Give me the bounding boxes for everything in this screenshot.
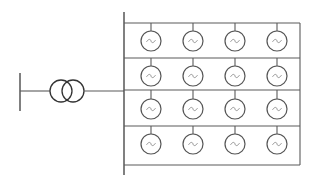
generator-icon <box>141 90 161 119</box>
generator-icon <box>225 90 245 119</box>
generator-icon <box>183 58 203 86</box>
transformer-icon <box>50 80 124 102</box>
generator-icon <box>225 58 245 86</box>
generator-icon <box>267 58 287 86</box>
generator-icon <box>141 23 161 51</box>
collector-array <box>124 12 300 175</box>
generator-icon <box>267 90 287 119</box>
generator-icon <box>183 90 203 119</box>
transformer-primary-winding-icon <box>50 80 72 102</box>
single-line-diagram <box>0 0 318 184</box>
generator-icon <box>141 58 161 86</box>
generator-icon <box>141 126 161 154</box>
generator-icon <box>267 126 287 154</box>
generator-icon <box>225 23 245 51</box>
grid-side <box>20 73 50 111</box>
generator-icon <box>183 23 203 51</box>
generator-icon <box>183 126 203 154</box>
generator-icon <box>267 23 287 51</box>
transformer-secondary-winding-icon <box>62 80 84 102</box>
generator-icon <box>225 126 245 154</box>
